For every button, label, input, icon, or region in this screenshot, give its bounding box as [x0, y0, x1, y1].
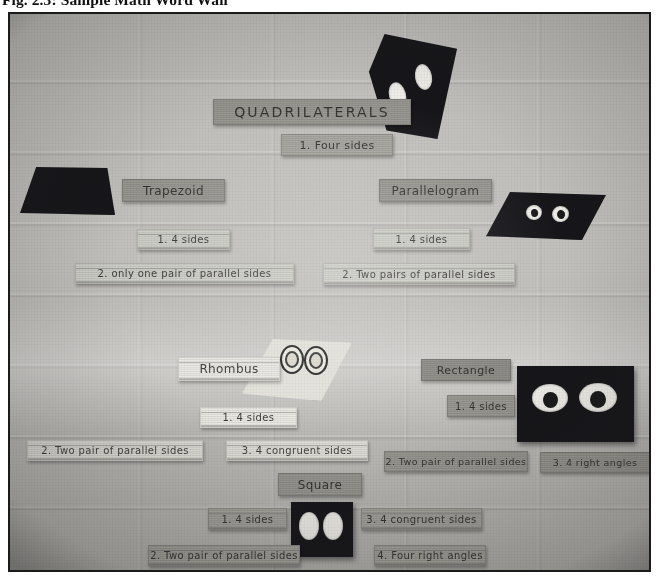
photo-grain-overlay — [10, 14, 649, 570]
figure-page: Fig. 2.3: Sample Math Word Wall — [0, 0, 659, 579]
word-wall-photograph: QUADRILATERALS 1. Four sides Trapezoid 1… — [8, 12, 651, 572]
figure-caption: Fig. 2.3: Sample Math Word Wall — [2, 0, 228, 9]
